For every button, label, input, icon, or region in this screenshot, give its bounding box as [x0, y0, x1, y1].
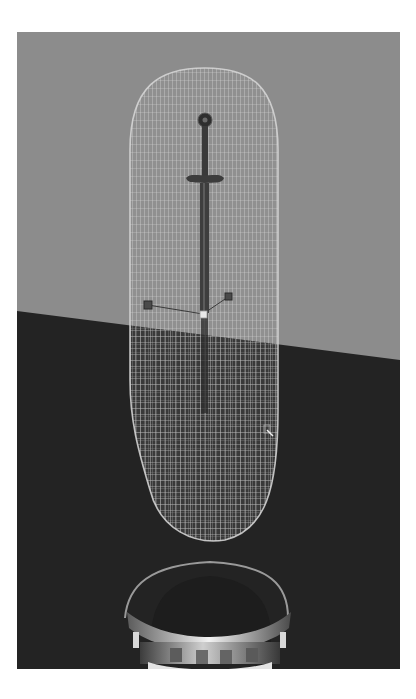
handle-left[interactable]: [144, 301, 152, 309]
handle-center[interactable]: [200, 311, 207, 318]
handle-right[interactable]: [225, 293, 232, 300]
3d-viewport[interactable]: 3D viewport - sword in capsule collider …: [17, 32, 400, 669]
